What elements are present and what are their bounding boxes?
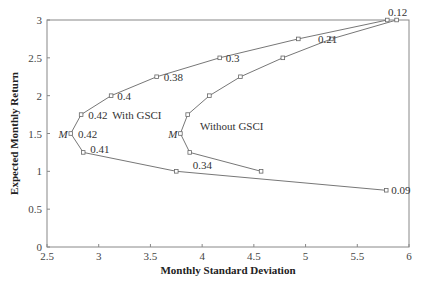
data-marker <box>81 151 85 155</box>
weight-annotation: 0.42 <box>88 109 107 121</box>
data-marker <box>208 94 212 98</box>
weight-annotation: 0.38 <box>164 71 184 83</box>
weight-annotation: 0.21 <box>318 33 337 45</box>
x-tick-label: 4.5 <box>247 250 261 262</box>
weight-annotation: 0.09 <box>391 184 411 196</box>
x-tick-label: 5.5 <box>350 250 364 262</box>
y-tick-label: 0 <box>37 241 43 253</box>
data-marker <box>179 132 183 136</box>
y-tick-label: 2 <box>37 90 43 102</box>
data-marker <box>174 170 178 174</box>
min-variance-label: M <box>167 128 178 140</box>
series-line-with-gsci <box>71 20 388 190</box>
data-marker <box>218 56 222 60</box>
y-tick-label: 1.5 <box>28 128 42 140</box>
x-tick-label: 6 <box>406 250 412 262</box>
x-tick-label: 3.5 <box>144 250 158 262</box>
y-tick-label: 3 <box>37 14 43 26</box>
x-tick-label: 2.5 <box>40 250 54 262</box>
y-axis-title: Expected Monthly Return <box>8 72 20 195</box>
data-marker <box>259 170 263 174</box>
x-tick-label: 4 <box>199 250 205 262</box>
data-marker <box>79 113 83 117</box>
data-marker <box>281 56 285 60</box>
data-marker <box>155 75 159 79</box>
data-marker <box>395 18 399 22</box>
y-tick-label: 0.5 <box>28 203 42 215</box>
data-marker <box>385 18 389 22</box>
weight-annotation: 0.12 <box>388 6 407 18</box>
data-marker <box>297 37 301 41</box>
series-label: With GSCI <box>112 109 162 121</box>
efficient-frontier-chart: 2.533.544.555.5600.511.522.53Monthly Sta… <box>0 0 423 284</box>
y-tick-label: 2.5 <box>28 52 42 64</box>
data-marker <box>384 188 388 192</box>
min-variance-label: M <box>58 128 69 140</box>
weight-annotation: 0.4 <box>117 90 131 102</box>
data-marker <box>186 113 190 117</box>
data-marker <box>109 94 113 98</box>
weight-annotation: 0.41 <box>90 143 109 155</box>
series-line-without-gsci <box>180 20 396 171</box>
y-tick-label: 1 <box>37 165 43 177</box>
data-marker <box>239 75 243 79</box>
x-tick-label: 5 <box>303 250 309 262</box>
weight-annotation: 0.3 <box>226 52 240 64</box>
data-marker <box>188 151 192 155</box>
x-tick-label: 3 <box>96 250 102 262</box>
weight-annotation: 0.42 <box>78 128 97 140</box>
data-marker <box>69 132 73 136</box>
x-axis-title: Monthly Standard Deviation <box>160 264 295 276</box>
weight-annotation: 0.34 <box>193 159 213 171</box>
series-label: Without GSCI <box>200 120 264 132</box>
